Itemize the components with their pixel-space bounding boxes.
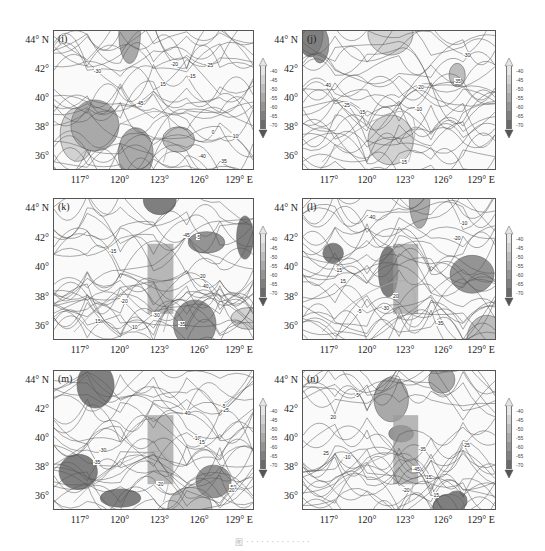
contour-value-label: -10 [343, 454, 350, 460]
lon-tick-label: 126° [181, 344, 217, 355]
lon-tick-label: 126° [181, 174, 217, 185]
lon-tick-label: 123° [142, 174, 178, 185]
lat-tick-label: 42° [15, 232, 49, 243]
colorbar-label: -45 [516, 245, 523, 251]
colorbar: -40-45-50-55-60-65-70 [504, 58, 538, 138]
contour-value-label: -5 [357, 308, 361, 314]
contour-value-label: 0 [212, 129, 215, 135]
colorbar-label: -60 [270, 104, 277, 110]
colorbar-label: -65 [270, 281, 277, 287]
contour-value-label: -5 [221, 403, 225, 409]
lon-tick-label: 123° [387, 174, 423, 185]
contour-value-label: -45 [183, 232, 190, 238]
colorbar-label: -45 [270, 417, 277, 423]
colorbar-swatch [506, 111, 512, 120]
contour-value-label: -35 [419, 446, 426, 452]
colorbar-swatch [506, 288, 512, 297]
contour-value-label: 15 [360, 109, 366, 115]
colorbar-label: -60 [270, 444, 277, 450]
lon-tick-label: 120° [102, 174, 138, 185]
contour-value-label: -5 [196, 234, 200, 240]
contour-value-label: 20 [331, 414, 337, 420]
panel-label: (k) [58, 201, 70, 212]
colorbar-swatch [506, 415, 512, 424]
colorbar-label: -50 [516, 426, 523, 432]
contour-value-label: 20 [200, 273, 206, 279]
lat-tick-label: 38° [264, 461, 298, 472]
lat-tick-label: 38° [15, 121, 49, 132]
contour-value-label: -15 [400, 159, 407, 165]
contour-value-label: -45 [136, 100, 143, 106]
colorbar-label: -55 [516, 95, 523, 101]
contour-value-label: -20 [417, 84, 424, 90]
contour-value-label: -25 [463, 442, 470, 448]
contour-value-label: -15 [432, 492, 439, 498]
lat-tick-label: 44° N [15, 202, 49, 213]
lon-tick-label: 120° [349, 344, 385, 355]
contour-value-label: -20 [171, 61, 178, 67]
lat-tick-label: 38° [15, 461, 49, 472]
colorbar-swatch [506, 75, 512, 84]
colorbar-label: -65 [270, 113, 277, 119]
colorbar-swatch [260, 243, 266, 252]
colorbar-label: -70 [516, 462, 523, 468]
panel-label: (i) [58, 33, 67, 44]
contour-value-label: -35 [436, 320, 443, 326]
contour-value-label: -20 [156, 481, 163, 487]
panel-label: (j) [307, 33, 316, 44]
contour-value-label: -15 [109, 248, 116, 254]
contour-value-label: 15 [160, 81, 166, 87]
lon-tick-label: 117° [62, 514, 98, 525]
contour-value-label: -40 [201, 283, 208, 289]
contour-value-label: -40 [199, 153, 206, 159]
colorbar-swatch [506, 451, 512, 460]
lat-tick-label: 42° [15, 63, 49, 74]
contour-field [303, 371, 495, 509]
colorbar-label: -45 [270, 245, 277, 251]
lat-tick-label: 36° [264, 320, 298, 331]
lat-tick-label: 36° [15, 490, 49, 501]
colorbar-swatch [260, 102, 266, 111]
contour-value-label: -40 [368, 214, 375, 220]
lon-tick-label: 123° [142, 514, 178, 525]
lon-tick-label: 126° [181, 514, 217, 525]
map-frame: (n)-45-35-25-20-15-10-5152025 [302, 370, 496, 510]
colorbar-swatch [506, 84, 512, 93]
colorbar-swatch [506, 93, 512, 102]
lat-tick-label: 42° [264, 403, 298, 414]
colorbar-swatch [506, 243, 512, 252]
colorbar-label: -60 [270, 272, 277, 278]
lon-tick-label: 126° [425, 514, 461, 525]
colorbar-swatch [260, 451, 266, 460]
colorbar-label: -45 [516, 417, 523, 423]
contour-value-label: -40 [183, 410, 190, 416]
colorbar-label: -60 [516, 272, 523, 278]
colorbar-swatch [506, 252, 512, 261]
map-frame: (i)-45-35-30-25-15-10-40015-20 [53, 30, 254, 170]
contour-value-label: 15 [340, 278, 346, 284]
contour-value-label: -25 [206, 62, 213, 68]
contour-value-label: -30 [463, 52, 470, 58]
colorbar-label: -45 [516, 77, 523, 83]
contour-value-label: -30 [152, 312, 159, 318]
contour-value-label: -35 [220, 158, 227, 164]
lat-tick-label: 36° [264, 490, 298, 501]
contour-value-label: 15 [95, 318, 101, 324]
colorbar-swatch [506, 234, 512, 243]
contour-value-label: -20 [402, 487, 409, 493]
figure-caption: 图 · · · · · · · · · · · · · [0, 536, 545, 547]
contour-value-label: -40 [324, 82, 331, 88]
colorbar-swatch [506, 102, 512, 111]
lon-tick-label: 129° E [463, 174, 499, 185]
contour-value-label: -15 [335, 267, 342, 273]
colorbar-label: -40 [516, 68, 523, 74]
colorbar-swatch [506, 424, 512, 433]
colorbar-swatch [260, 252, 266, 261]
colorbar-label: -50 [270, 254, 277, 260]
lat-tick-label: 38° [264, 291, 298, 302]
lat-tick-label: 36° [15, 320, 49, 331]
colorbar-swatch [506, 442, 512, 451]
lon-tick-label: 117° [311, 344, 347, 355]
contour-value-label: 20 [229, 487, 235, 493]
contour-value-label: -10 [415, 106, 422, 112]
